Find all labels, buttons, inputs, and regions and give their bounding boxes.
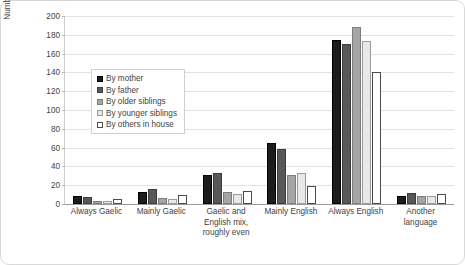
legend-item-label: By younger siblings (106, 109, 177, 118)
bar (233, 194, 242, 204)
bar (213, 173, 222, 204)
bar (148, 189, 157, 204)
y-axis-tick-label: 140 (46, 68, 60, 77)
bar (223, 192, 232, 204)
x-axis-label: Always English (323, 207, 388, 239)
x-axis-label: Always Gaelic (64, 207, 129, 239)
y-axis-tick-label: 80 (51, 124, 60, 133)
bar (73, 196, 82, 204)
legend-swatch-icon (97, 76, 103, 82)
y-axis-tick-label: 200 (46, 12, 60, 21)
bar (372, 72, 381, 204)
legend-swatch-icon (97, 110, 103, 116)
bar (297, 173, 306, 204)
y-axis-tick-label: 40 (51, 162, 60, 171)
y-axis-title: Number of respondents (3, 0, 12, 51)
legend-item-label: By others in house (106, 120, 174, 129)
bar (103, 201, 112, 204)
bar (158, 198, 167, 204)
bar-group (324, 16, 389, 204)
bar (113, 199, 122, 204)
legend-item-label: By father (106, 86, 139, 95)
bar (427, 196, 436, 204)
chart-legend: By motherBy fatherBy older siblingsBy yo… (91, 69, 185, 134)
bar (307, 186, 316, 204)
bar-group (389, 16, 454, 204)
bar (203, 175, 212, 204)
legend-item-label: By mother (106, 74, 143, 83)
chart-figure: Number of respondents 020406080100120140… (0, 0, 465, 265)
legend-swatch-icon (97, 122, 103, 128)
bar (243, 191, 252, 204)
y-axis-tick-mark (62, 204, 65, 205)
legend-item-label: By older siblings (106, 97, 166, 106)
y-axis-tick-label: 180 (46, 30, 60, 39)
legend-item: By younger siblings (97, 109, 177, 118)
x-axis-label: Another language (388, 207, 453, 239)
bar (352, 27, 361, 204)
x-axis-label: Mainly Gaelic (129, 207, 194, 239)
y-axis-tick-label: 120 (46, 87, 60, 96)
bar (332, 40, 341, 205)
legend-item: By older siblings (97, 97, 177, 106)
bar (178, 195, 187, 204)
x-axis-label: Gaelic and English mix, roughly even (194, 207, 259, 239)
bar (342, 44, 351, 204)
legend-item: By others in house (97, 120, 177, 129)
legend-item: By mother (97, 74, 177, 83)
bar (267, 143, 276, 204)
y-axis-tick-label: 0 (55, 200, 60, 209)
y-axis-tick-label: 100 (46, 106, 60, 115)
x-axis-labels: Always GaelicMainly GaelicGaelic and Eng… (64, 207, 453, 239)
y-axis-tick-label: 20 (51, 181, 60, 190)
bar-group (259, 16, 324, 204)
legend-item: By father (97, 86, 177, 95)
y-axis-tick-label: 160 (46, 49, 60, 58)
legend-swatch-icon (97, 99, 103, 105)
y-axis-tick-label: 60 (51, 143, 60, 152)
bar (407, 193, 416, 204)
bar (277, 149, 286, 204)
bar (168, 199, 177, 204)
bar (417, 196, 426, 204)
x-axis-label: Mainly English (258, 207, 323, 239)
legend-swatch-icon (97, 87, 103, 93)
bar (362, 41, 371, 204)
bar (437, 194, 446, 204)
bar (138, 192, 147, 204)
bar (93, 201, 102, 204)
bar (287, 175, 296, 204)
bar-group (195, 16, 260, 204)
bar (83, 197, 92, 204)
bar (397, 196, 406, 204)
